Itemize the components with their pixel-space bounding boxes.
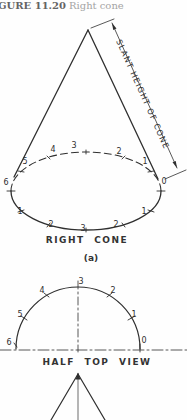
base-point-label-2: 2 (114, 147, 124, 157)
base-ellipse-hidden-arc (11, 152, 161, 191)
half-top-label-6: 6 (4, 338, 14, 348)
base-point-label-1: 1 (140, 157, 150, 167)
front-view-apex (51, 373, 105, 420)
base-point-label-5: 5 (20, 157, 30, 167)
base-point-label-4: 4 (48, 145, 58, 155)
dimension-arrowhead-top (112, 23, 117, 30)
half-top-label-1: 1 (129, 310, 139, 320)
half-top-view (0, 281, 187, 352)
dimension-arrowhead-bottom (173, 161, 178, 168)
front-view-right-edge (78, 374, 105, 420)
base-point-label-6: 6 (1, 178, 11, 188)
half-top-label-5: 5 (15, 310, 25, 320)
half-top-view-ticks (14, 293, 140, 352)
right-cone-title: RIGHT CONE (29, 235, 145, 245)
figure-right-cone: GURE 11.20Right cone (0, 0, 187, 420)
half-top-label-3: 3 (76, 277, 86, 287)
half-top-label-2: 2 (108, 286, 118, 296)
half-top-view-title: HALF TOP VIEW (39, 357, 155, 367)
base-point-label-bottom-2-left: 2 (46, 220, 56, 230)
base-point-label-bottom-1-left: 1 (15, 207, 25, 217)
base-point-label-bottom-2-right: 2 (111, 220, 121, 230)
base-point-label-bottom-1-right: 1 (139, 207, 149, 217)
view-tag-a: (a) (76, 253, 106, 263)
extension-line-apex (91, 19, 114, 28)
half-top-label-4: 4 (37, 286, 47, 296)
base-point-label-3: 3 (69, 141, 79, 151)
right-cone-view: SLANT HEIGHT OF CONE (7, 19, 186, 232)
base-point-label-0: 0 (159, 177, 169, 187)
slant-height-label: SLANT HEIGHT OF CONE (114, 38, 171, 150)
slant-height-dimension (91, 19, 186, 179)
half-top-label-0: 0 (139, 336, 149, 346)
front-view-left-edge (51, 374, 78, 420)
base-point-label-bottom-3: 3 (78, 224, 88, 234)
